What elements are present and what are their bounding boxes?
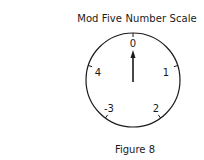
pointer-arrowhead-icon — [131, 50, 136, 58]
tick-2 — [158, 115, 160, 118]
figure-caption: Figure 8 — [100, 144, 170, 155]
dial-label-4: 4 — [95, 67, 101, 78]
dial-label-2: 2 — [153, 103, 159, 114]
dial-label-minus3: -3 — [104, 103, 114, 114]
tick-3 — [105, 115, 107, 118]
mod-five-dial: 0 1 2 -3 4 — [0, 0, 204, 160]
tick-1 — [174, 66, 178, 67]
dial-label-1: 1 — [163, 67, 169, 78]
tick-4 — [88, 66, 92, 67]
dial-label-0: 0 — [130, 38, 136, 49]
